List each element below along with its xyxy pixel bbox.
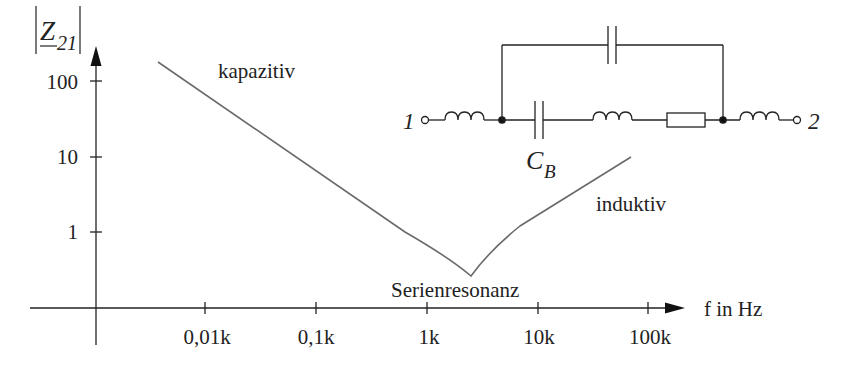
svg-text:Z: Z <box>40 16 56 46</box>
y-tick-labels: 100 10 1 <box>47 70 79 244</box>
x-axis-label: f in Hz <box>704 297 762 321</box>
svg-text:10: 10 <box>57 145 78 169</box>
svg-text:C: C <box>526 146 544 175</box>
svg-text:100: 100 <box>47 70 79 94</box>
svg-text:10k: 10k <box>523 325 555 349</box>
svg-text:1: 1 <box>68 220 79 244</box>
svg-text:21: 21 <box>57 32 77 54</box>
x-axis-arrow-icon <box>665 303 685 314</box>
annotation-resonance: Serienresonanz <box>391 278 519 302</box>
terminal-2-icon <box>794 117 801 124</box>
svg-text:B: B <box>544 161 556 182</box>
impedance-curve <box>158 62 631 276</box>
impedance-figure: Z 21 100 10 1 0,01k 0,1k 1k 10k 100k f i… <box>0 0 855 366</box>
x-tick-labels: 0,01k 0,1k 1k 10k 100k <box>183 325 671 349</box>
inductor-3-icon <box>740 112 779 120</box>
resistor-icon <box>667 113 705 127</box>
svg-text:0,1k: 0,1k <box>298 325 335 349</box>
y-axis-arrow-icon <box>91 46 102 66</box>
cb-label: C B <box>526 146 556 182</box>
svg-text:100k: 100k <box>629 325 672 349</box>
annotation-capacitive: kapazitiv <box>218 59 295 83</box>
terminal-2-label: 2 <box>808 109 820 134</box>
node-right-icon <box>720 117 726 123</box>
inductor-2-icon <box>593 112 632 120</box>
annotation-inductive: induktiv <box>596 192 667 216</box>
svg-text:0,01k: 0,01k <box>183 325 231 349</box>
inductor-1-icon <box>445 112 484 120</box>
equivalent-circuit <box>422 26 801 139</box>
svg-text:1k: 1k <box>419 325 441 349</box>
terminal-1-label: 1 <box>403 109 415 134</box>
y-axis-label: Z 21 <box>36 6 80 54</box>
terminal-1-icon <box>422 117 429 124</box>
